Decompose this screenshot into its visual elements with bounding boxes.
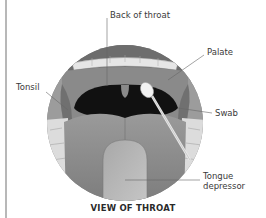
- label-back-of-throat: Back of throat: [110, 10, 170, 20]
- tongue-depressor: [103, 140, 147, 205]
- label-palate: Palate: [207, 47, 233, 57]
- label-tongue-depressor-line2: depressor: [203, 181, 245, 191]
- label-swab: Swab: [215, 108, 238, 118]
- figure-caption: VIEW OF THROAT: [0, 203, 266, 213]
- label-tongue-depressor-line1: Tongue: [203, 171, 233, 181]
- label-tonsil: Tonsil: [16, 82, 40, 92]
